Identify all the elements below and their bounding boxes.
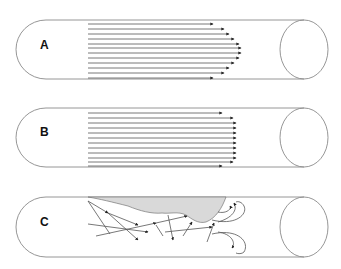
laminar-flow-arrows <box>88 24 241 78</box>
tube-b-end-cap <box>280 108 328 167</box>
panel-b: B <box>16 108 328 167</box>
plaque-obstruction <box>88 197 226 222</box>
tube-a-end-cap <box>280 20 328 79</box>
flow-diagram: A B C <box>0 0 341 269</box>
panel-label-c: C <box>40 215 49 229</box>
plug-flow-arrows <box>88 113 236 166</box>
tube-c-end-cap <box>280 197 328 257</box>
panel-label-b: B <box>40 125 49 139</box>
panel-c: C <box>16 197 328 257</box>
panel-label-a: A <box>40 38 49 52</box>
panel-a: A <box>16 20 328 79</box>
